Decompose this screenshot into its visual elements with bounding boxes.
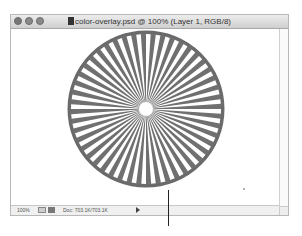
document-icon <box>68 17 74 25</box>
callout-pointer-line <box>168 190 169 226</box>
status-bar: 100% Doc: 703.1K/703.1K <box>11 205 279 215</box>
vertical-scrollbar[interactable] <box>279 29 288 206</box>
starburst-artwork <box>67 30 225 188</box>
window-title-text: color-overlay.psd @ 100% (Layer 1, RGB/8… <box>75 17 231 26</box>
screen-mode-icon[interactable] <box>38 207 46 213</box>
canvas-speck <box>243 188 245 190</box>
doc-size-info: Doc: 703.1K/703.1K <box>63 206 108 214</box>
zoom-level-field[interactable]: 100% <box>17 206 30 214</box>
version-cue-icon[interactable] <box>48 207 55 213</box>
status-menu-arrow-icon[interactable] <box>136 207 140 213</box>
window-title: color-overlay.psd @ 100% (Layer 1, RGB/8… <box>11 16 288 27</box>
title-bar[interactable]: color-overlay.psd @ 100% (Layer 1, RGB/8… <box>11 15 288 29</box>
resize-grip-icon[interactable] <box>279 206 288 215</box>
